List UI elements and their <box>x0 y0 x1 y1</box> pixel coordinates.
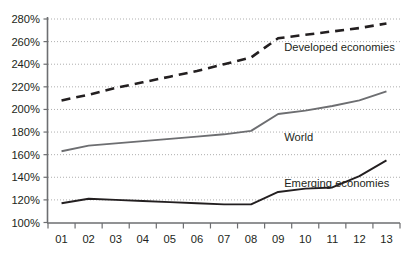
x-tick-label: 12 <box>353 233 365 245</box>
x-tick-label: 02 <box>82 233 94 245</box>
chart-canvas: 100%120%140%160%180%200%220%240%260%280%… <box>0 0 408 259</box>
y-tick-label: 160% <box>11 149 40 161</box>
x-tick-label: 01 <box>55 233 67 245</box>
line-chart: 100%120%140%160%180%200%220%240%260%280%… <box>0 0 408 259</box>
x-tick-label: 13 <box>380 233 392 245</box>
series-label: Developed economies <box>284 41 395 53</box>
y-tick-label: 120% <box>11 194 40 206</box>
x-tick-label: 11 <box>326 233 338 245</box>
x-tick-label: 05 <box>164 233 176 245</box>
x-tick-label: 04 <box>137 233 149 245</box>
y-tick-label: 240% <box>11 58 40 70</box>
y-tick-label: 280% <box>11 13 40 25</box>
y-tick-label: 260% <box>11 36 40 48</box>
x-tick-label: 07 <box>218 233 230 245</box>
x-tick-label: 10 <box>299 233 311 245</box>
y-tick-label: 100% <box>11 217 40 229</box>
y-tick-label: 200% <box>11 103 40 115</box>
y-tick-label: 180% <box>11 126 40 138</box>
series-label: World <box>284 131 313 143</box>
x-tick-label: 06 <box>191 233 203 245</box>
x-tick-label: 08 <box>245 233 257 245</box>
chart-background <box>0 0 408 259</box>
x-tick-label: 03 <box>109 233 121 245</box>
y-tick-label: 220% <box>11 81 40 93</box>
series-label: Emerging economies <box>284 177 389 189</box>
y-tick-label: 140% <box>11 171 40 183</box>
x-tick-label: 09 <box>272 233 284 245</box>
